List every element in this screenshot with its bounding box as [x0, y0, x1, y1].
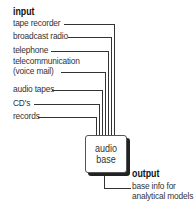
- output-heading: output: [132, 168, 159, 179]
- hub-line1: audio: [88, 143, 124, 154]
- output-line2: analytical models: [132, 191, 193, 201]
- hub-line2: base: [88, 154, 124, 165]
- audio-base-node: audio base: [85, 135, 127, 173]
